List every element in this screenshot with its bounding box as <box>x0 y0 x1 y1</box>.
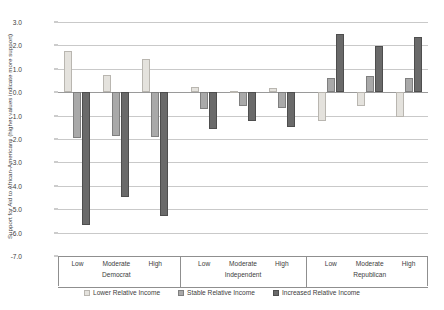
gridline <box>58 233 428 234</box>
y-axis-tick-label: -2.0 <box>0 136 22 143</box>
bar <box>160 92 168 216</box>
category-label-high: High <box>275 260 289 267</box>
legend-item[interactable]: Increased Relative Income <box>273 289 360 296</box>
legend-item[interactable]: Stable Relative Income <box>178 289 255 296</box>
bar <box>200 92 208 109</box>
y-axis-tick-label: 3.0 <box>0 19 22 26</box>
bar <box>287 92 295 127</box>
bar <box>396 92 404 117</box>
y-axis-tick-label: -7.0 <box>0 253 22 260</box>
y-axis-tick-label: 2.0 <box>0 42 22 49</box>
y-axis-tick-label: -5.0 <box>0 206 22 213</box>
category-label-low: Low <box>325 260 337 267</box>
bar <box>414 37 422 92</box>
bar <box>142 59 150 92</box>
gridline <box>58 186 428 187</box>
group-separator <box>180 257 181 287</box>
group-label-independent: Independent <box>225 271 262 278</box>
legend-label: Lower Relative Income <box>93 289 160 296</box>
bar <box>73 92 81 138</box>
y-axis-tick-label: -3.0 <box>0 159 22 166</box>
legend-swatch-lower-relative-income <box>84 290 90 296</box>
bar <box>239 92 247 106</box>
chart-legend: Lower Relative IncomeStable Relative Inc… <box>0 289 444 296</box>
group-label-republican: Republican <box>353 271 386 278</box>
y-axis-tick-label: -4.0 <box>0 182 22 189</box>
legend-swatch-stable-relative-income <box>178 290 184 296</box>
category-label-moderate: Moderate <box>356 260 384 267</box>
bar <box>357 92 365 106</box>
gridline <box>58 209 428 210</box>
gridline <box>58 162 428 163</box>
plot-area <box>58 22 428 256</box>
bar <box>64 51 72 92</box>
bar <box>151 92 159 137</box>
gridline <box>58 22 428 23</box>
category-label-low: Low <box>198 260 210 267</box>
legend-item[interactable]: Lower Relative Income <box>84 289 160 296</box>
bar <box>209 92 217 129</box>
category-label-high: High <box>402 260 416 267</box>
bar-chart: Support for Aid to African-Americans (hi… <box>0 0 444 310</box>
bar <box>318 92 326 121</box>
bar <box>375 46 383 92</box>
category-label-moderate: Moderate <box>229 260 257 267</box>
bar <box>248 92 256 121</box>
category-label-moderate: Moderate <box>102 260 130 267</box>
gridline <box>58 45 428 46</box>
category-label-low: Low <box>71 260 83 267</box>
bar <box>366 76 374 92</box>
group-separator <box>306 257 307 287</box>
bar <box>82 92 90 225</box>
legend-label: Stable Relative Income <box>187 289 255 296</box>
bar <box>191 87 199 92</box>
bar <box>121 92 129 197</box>
bar <box>327 78 335 92</box>
group-label-democrat: Democrat <box>102 271 131 278</box>
bar <box>230 91 238 93</box>
category-axis: LowModerateHighDemocratLowModerateHighIn… <box>58 256 428 288</box>
gridline <box>58 139 428 140</box>
bar <box>336 34 344 93</box>
y-axis-tick-label: -1.0 <box>0 112 22 119</box>
legend-label: Increased Relative Income <box>282 289 360 296</box>
bar <box>278 92 286 108</box>
bar <box>103 75 111 92</box>
bar <box>112 92 120 136</box>
bar <box>405 78 413 93</box>
y-axis-tick-label: -6.0 <box>0 229 22 236</box>
y-axis-tick-label: 0.0 <box>0 89 22 96</box>
category-label-high: High <box>148 260 162 267</box>
bar <box>269 88 277 92</box>
y-axis-tick-label: 1.0 <box>0 65 22 72</box>
legend-swatch-increased-relative-income <box>273 290 279 296</box>
gridline <box>58 69 428 70</box>
